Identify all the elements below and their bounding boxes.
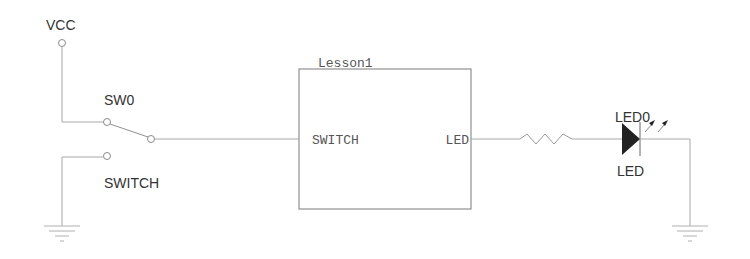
vcc-terminal-icon bbox=[59, 40, 66, 47]
switch-lever-icon bbox=[110, 124, 148, 137]
switch-value-label: SWITCH bbox=[104, 175, 159, 191]
switch-sw0[interactable]: SW0 SWITCH bbox=[104, 92, 160, 191]
vcc-power-symbol[interactable]: VCC bbox=[46, 17, 76, 47]
module-lesson1[interactable]: Lesson1 SWITCH LED bbox=[299, 56, 471, 209]
switch-ref-label: SW0 bbox=[104, 92, 135, 108]
wire-vcc-to-switch bbox=[62, 47, 104, 123]
switch-top-contact-icon bbox=[104, 119, 111, 126]
module-output-port-label: LED bbox=[446, 133, 470, 148]
led-led0[interactable]: LED0 LED bbox=[615, 109, 668, 179]
switch-common-contact-icon bbox=[148, 136, 155, 143]
wire-led-to-ground bbox=[640, 139, 690, 226]
resistor-icon[interactable] bbox=[520, 134, 572, 144]
ground-left-icon bbox=[44, 226, 80, 241]
wire-switch-to-ground bbox=[62, 157, 104, 226]
led-diode-triangle-icon bbox=[622, 123, 640, 155]
led-value-label: LED bbox=[617, 163, 644, 179]
vcc-label: VCC bbox=[46, 17, 76, 33]
led-ref-label: LED0 bbox=[615, 109, 650, 125]
module-input-port-label: SWITCH bbox=[312, 133, 359, 148]
switch-bottom-contact-icon bbox=[104, 153, 111, 160]
ground-right-icon bbox=[672, 226, 708, 241]
schematic-canvas: VCC SW0 SWITCH Lesson1 SWITCH LED LED0 bbox=[0, 0, 750, 259]
